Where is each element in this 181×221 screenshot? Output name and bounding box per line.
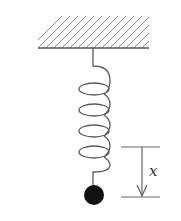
mass-ball <box>84 185 104 205</box>
displacement-label: x <box>149 162 158 180</box>
spring-mass-diagram: x <box>0 0 181 221</box>
spring <box>79 48 110 186</box>
ceiling-support <box>30 16 174 48</box>
ceiling-hatch <box>30 16 174 48</box>
